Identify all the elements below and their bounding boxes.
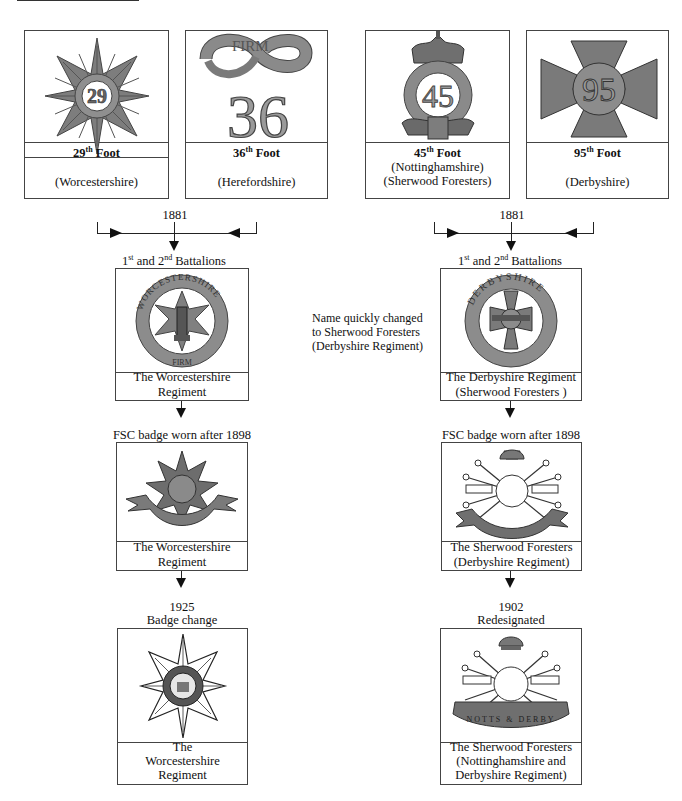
right-battalions-label: 1st and 2nd Battalions <box>440 254 580 268</box>
caption-45th-foot: 45th Foot (Nottinghamshire) (Sherwood Fo… <box>365 143 510 199</box>
box-caption: The Sherwood Foresters (Derbyshire Regim… <box>442 540 581 570</box>
right-box-1881-derbyshire: DERBYSHIRE The Derbyshire Regiment (Sher… <box>440 268 582 401</box>
right-box-1902-sherwood-foresters: NOTTS & DERBY The Sherwood Foresters (No… <box>440 628 582 785</box>
left-merge-year: 1881 <box>150 208 200 222</box>
side-note-name-change: Name quickly changed to Sherwood Foreste… <box>312 311 434 353</box>
badge-image: NOTTS & DERBY <box>441 629 581 743</box>
box-caption: The Sherwood Foresters (Nottinghamshire … <box>441 739 581 784</box>
badge-image: WORCESTERSHIRE FIRM <box>116 269 248 373</box>
badge-box-95th-foot: 95 <box>526 30 669 143</box>
badge-box-45th-foot: 45 <box>365 30 510 143</box>
left-step3-label: Badge change <box>130 613 234 627</box>
box-caption: The Worcestershire Regiment <box>118 739 247 784</box>
arrow-left-icon <box>228 228 240 238</box>
left-box-1925-worcestershire: The Worcestershire Regiment <box>117 628 248 785</box>
sherwood-foresters-notts-derby-badge-icon: NOTTS & DERBY <box>448 632 574 740</box>
worcestershire-star-badge-icon <box>133 631 233 741</box>
arrow-down-icon <box>176 408 186 418</box>
caption-number: 29 <box>73 146 86 160</box>
arrow-right-icon <box>110 228 122 238</box>
svg-text:29: 29 <box>87 85 107 107</box>
sherwood-foresters-fsc-badge-icon <box>449 445 575 539</box>
badge-image <box>118 629 247 743</box>
svg-text:95: 95 <box>582 71 616 108</box>
right-merge-year: 1881 <box>487 208 537 222</box>
arrow-down-icon <box>506 241 516 251</box>
box-caption: The Worcestershire Regiment <box>116 370 248 400</box>
badge-box-36th-foot: FIRM 36 <box>185 30 328 143</box>
box-caption: The Worcestershire Regiment <box>117 540 247 570</box>
left-box-fsc-worcestershire: The Worcestershire Regiment <box>116 442 248 571</box>
maltese-cross-95-badge-icon: 95 <box>527 31 670 144</box>
caption-29th-foot: 29th Foot (Worcestershire) <box>24 143 169 199</box>
worcestershire-ring-badge-icon: WORCESTERSHIRE FIRM <box>127 271 237 371</box>
left-step2-label: FSC badge worn after 1898 <box>95 428 269 442</box>
left-box-1881-worcestershire: WORCESTERSHIRE FIRM The Worcestershire R… <box>115 268 249 401</box>
badge-image <box>442 443 581 542</box>
star-badge-29-icon: 29 <box>42 34 152 154</box>
arrow-down-icon <box>169 241 179 251</box>
derbyshire-ring-badge-icon: DERBYSHIRE <box>456 271 566 371</box>
caption-county: (Worcestershire) <box>25 175 168 190</box>
svg-text:36: 36 <box>227 82 289 144</box>
right-step3-year: 1902 <box>459 600 563 614</box>
right-step2-label: FSC badge worn after 1898 <box>424 428 598 442</box>
caption-95th-foot: 95th Foot (Derbyshire) <box>526 143 669 199</box>
arrow-right-icon <box>447 228 459 238</box>
arrow-down-icon <box>176 578 186 588</box>
worcestershire-fsc-badge-icon <box>122 447 242 537</box>
firm-36-badge-icon: FIRM 36 <box>186 31 329 144</box>
svg-text:45: 45 <box>422 78 454 114</box>
heading-underline <box>17 0 139 1</box>
badge-image: DERBYSHIRE <box>441 269 581 373</box>
arrow-down-icon <box>505 408 515 418</box>
right-step3-label: Redesignated <box>459 613 563 627</box>
svg-text:FIRM: FIRM <box>232 38 269 54</box>
arrow-down-icon <box>505 578 515 588</box>
badge-image <box>117 443 247 542</box>
right-merge-stem <box>511 222 512 242</box>
badge-box-29th-foot: 29 <box>24 30 169 143</box>
left-merge-stem <box>174 222 175 242</box>
right-box-fsc-sherwood-foresters: The Sherwood Foresters (Derbyshire Regim… <box>441 442 582 571</box>
box-caption: The Derbyshire Regiment (Sherwood Forest… <box>441 370 581 400</box>
left-battalions-label: 1st and 2nd Battalions <box>104 254 244 268</box>
svg-text:NOTTS & DERBY: NOTTS & DERBY <box>466 715 555 724</box>
crowned-45-badge-icon: 45 <box>366 31 511 144</box>
arrow-left-icon <box>565 228 577 238</box>
caption-36th-foot: 36th Foot (Herefordshire) <box>185 143 328 199</box>
svg-text:FIRM: FIRM <box>172 358 192 367</box>
badge-image: 29 <box>25 31 168 158</box>
left-step3-year: 1925 <box>130 600 234 614</box>
